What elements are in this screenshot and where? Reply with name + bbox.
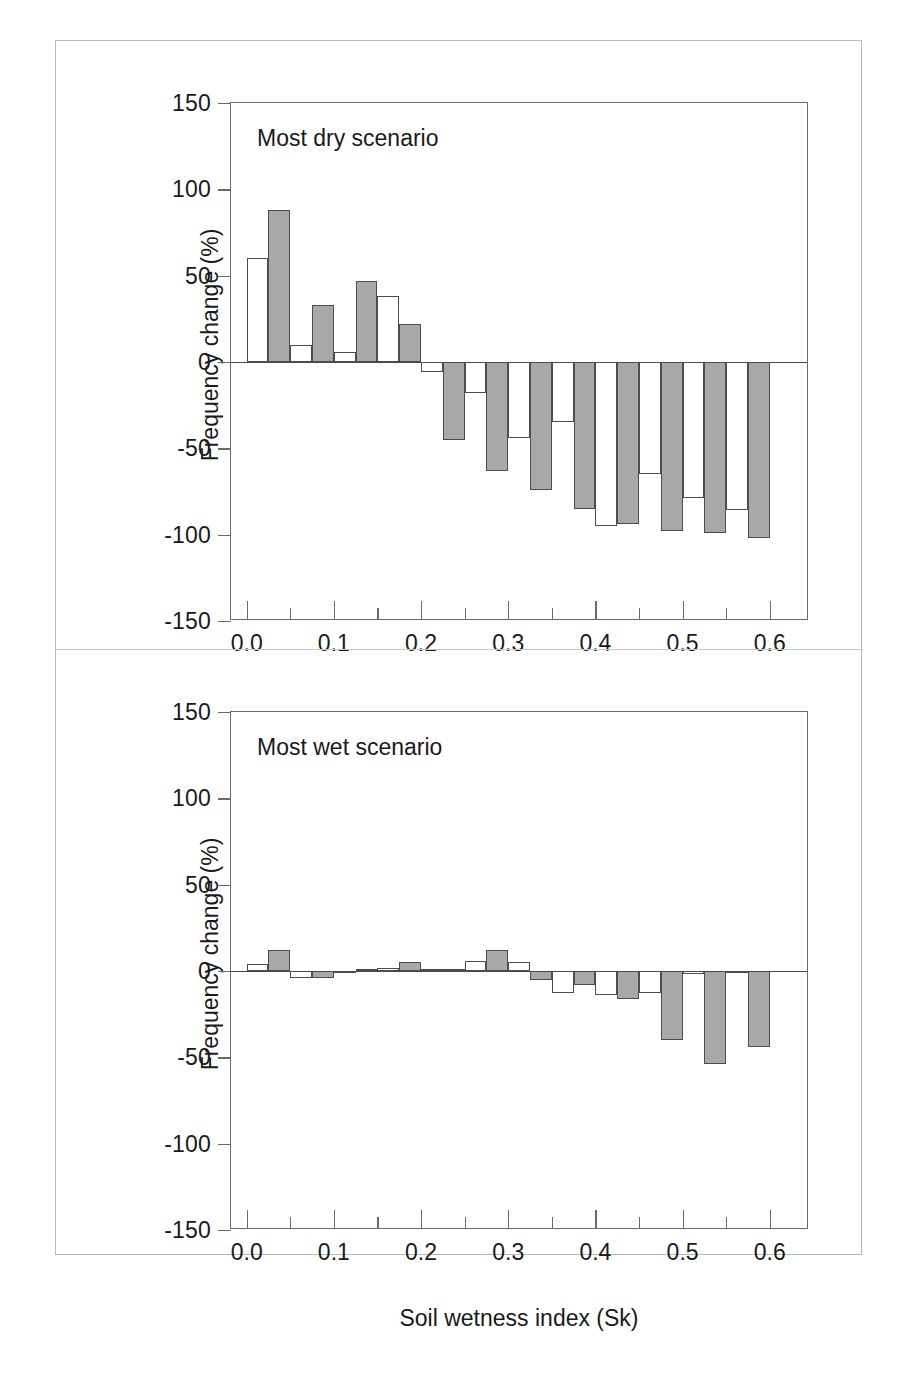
x-tick-minor-top-2 [465, 608, 466, 619]
y-tick-top-1 [218, 189, 231, 190]
y-tick-top-4 [218, 448, 231, 449]
x-tick-minor-bottom-3 [552, 1217, 553, 1228]
bar-filled-7 [574, 971, 596, 985]
y-tick-label-top-1: 100 [172, 176, 211, 203]
x-tick-major-bottom-0 [247, 1210, 248, 1228]
bar-group-top [231, 103, 807, 619]
chart-panel-most-wet: Frequency change (%) Most wet scenario 1… [56, 649, 863, 1257]
x-tick-major-bottom-2 [421, 1210, 422, 1228]
bar-filled-3 [399, 962, 421, 971]
y-tick-bottom-2 [218, 885, 231, 886]
x-tick-label-bottom-3: 0.3 [492, 1239, 524, 1266]
bar-open-9 [639, 362, 661, 474]
y-tick-bottom-0 [218, 712, 231, 713]
bar-open-3 [377, 968, 399, 971]
bar-open-11 [726, 971, 748, 973]
plot-area-bottom: Most wet scenario 150100500-50-100-1500.… [230, 711, 808, 1229]
y-tick-label-top-0: 150 [172, 90, 211, 117]
x-tick-major-bottom-6 [770, 1210, 771, 1228]
x-tick-label-bottom-4: 0.4 [579, 1239, 611, 1266]
bar-group-bottom [231, 712, 807, 1228]
bar-open-7 [552, 971, 574, 993]
x-tick-minor-bottom-4 [639, 1217, 640, 1228]
bar-open-9 [639, 971, 661, 993]
bar-open-1 [290, 345, 312, 362]
bar-filled-5 [486, 362, 508, 471]
bar-filled-0 [268, 950, 290, 971]
bar-open-6 [508, 962, 530, 971]
bar-open-2 [334, 352, 356, 362]
x-tick-label-bottom-1: 0.1 [318, 1239, 350, 1266]
y-tick-label-bottom-2: 50 [185, 871, 211, 898]
bar-open-4 [421, 362, 443, 372]
bar-open-7 [552, 362, 574, 422]
y-tick-label-top-3: 0 [198, 349, 211, 376]
x-tick-label-bottom-0: 0.0 [231, 1239, 263, 1266]
chart-panel-most-dry: Frequency change (%) Most dry scenario 1… [56, 41, 863, 648]
x-tick-major-top-3 [508, 601, 509, 619]
y-tick-label-bottom-3: 0 [198, 958, 211, 985]
bar-filled-5 [486, 950, 508, 971]
y-tick-top-6 [218, 621, 231, 622]
y-tick-label-top-6: -150 [164, 608, 211, 635]
bar-open-8 [595, 362, 617, 526]
x-tick-minor-top-5 [726, 608, 727, 619]
bar-open-10 [683, 971, 705, 974]
bar-open-5 [465, 362, 487, 393]
bar-filled-10 [704, 971, 726, 1064]
x-tick-major-top-5 [683, 601, 684, 619]
bar-open-11 [726, 362, 748, 510]
bar-filled-0 [268, 210, 290, 362]
x-tick-major-bottom-4 [595, 1210, 596, 1228]
bar-open-5 [465, 961, 487, 971]
x-tick-major-bottom-3 [508, 1210, 509, 1228]
x-tick-major-bottom-1 [334, 1210, 335, 1228]
bar-open-0 [247, 258, 269, 362]
y-tick-label-bottom-0: 150 [172, 699, 211, 726]
bar-filled-8 [617, 971, 639, 999]
bar-open-6 [508, 362, 530, 438]
x-tick-minor-top-4 [639, 608, 640, 619]
x-axis-title: Soil wetness index (Sk) [230, 1305, 808, 1332]
y-tick-label-bottom-6: -150 [164, 1217, 211, 1244]
x-tick-major-top-2 [421, 601, 422, 619]
bar-open-4 [421, 969, 443, 971]
y-tick-bottom-1 [218, 798, 231, 799]
bar-open-10 [683, 362, 705, 498]
x-tick-major-top-4 [595, 601, 596, 619]
figure-frame: Frequency change (%) Most dry scenario 1… [55, 40, 862, 1255]
bar-filled-9 [661, 362, 683, 531]
bar-filled-10 [704, 362, 726, 533]
x-tick-minor-bottom-1 [377, 1217, 378, 1228]
x-tick-major-top-6 [770, 601, 771, 619]
y-tick-top-2 [218, 276, 231, 277]
bar-open-8 [595, 971, 617, 995]
x-tick-minor-top-1 [377, 608, 378, 619]
x-tick-minor-bottom-0 [290, 1217, 291, 1228]
x-tick-minor-bottom-2 [465, 1217, 466, 1228]
bar-open-2 [334, 971, 356, 973]
bar-filled-11 [748, 971, 770, 1047]
x-tick-major-top-0 [247, 601, 248, 619]
x-tick-label-bottom-5: 0.5 [667, 1239, 699, 1266]
bar-filled-2 [356, 281, 378, 362]
x-tick-minor-top-3 [552, 608, 553, 619]
bar-filled-4 [443, 362, 465, 440]
x-tick-label-bottom-2: 0.2 [405, 1239, 437, 1266]
bar-filled-7 [574, 362, 596, 509]
y-tick-bottom-5 [218, 1144, 231, 1145]
y-tick-top-0 [218, 103, 231, 104]
bar-filled-9 [661, 971, 683, 1040]
bar-filled-3 [399, 324, 421, 362]
bar-filled-1 [312, 305, 334, 362]
bar-filled-2 [356, 969, 378, 971]
bar-filled-6 [530, 971, 552, 980]
y-tick-label-top-4: -50 [177, 435, 211, 462]
y-tick-bottom-4 [218, 1057, 231, 1058]
x-tick-minor-top-0 [290, 608, 291, 619]
plot-area-top: Most dry scenario 150100500-50-100-1500.… [230, 102, 808, 620]
bar-filled-11 [748, 362, 770, 538]
x-tick-major-top-1 [334, 601, 335, 619]
y-tick-top-3 [218, 362, 231, 363]
y-tick-label-top-2: 50 [185, 262, 211, 289]
